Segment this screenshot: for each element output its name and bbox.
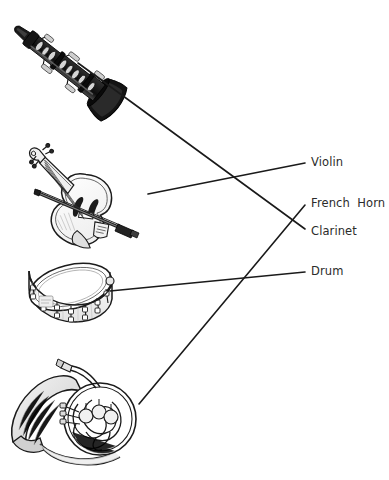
snare-drum-illustration <box>24 255 116 322</box>
label-violin[interactable]: Violin <box>311 157 343 169</box>
connector-clarinet <box>78 63 305 229</box>
clarinet-illustration <box>2 11 131 125</box>
connector-violin <box>148 163 305 194</box>
connector-drum <box>110 272 305 291</box>
label-clarinet[interactable]: Clarinet <box>311 226 357 238</box>
violin-illustration <box>6 139 129 254</box>
connector-french-horn <box>139 205 305 404</box>
matching-diagram-page: Violin French Horn Clarinet Drum <box>0 0 389 480</box>
label-drum[interactable]: Drum <box>311 266 343 278</box>
label-french-horn[interactable]: French Horn <box>311 198 385 210</box>
diagram-canvas <box>0 0 389 480</box>
french-horn-illustration <box>12 359 136 465</box>
